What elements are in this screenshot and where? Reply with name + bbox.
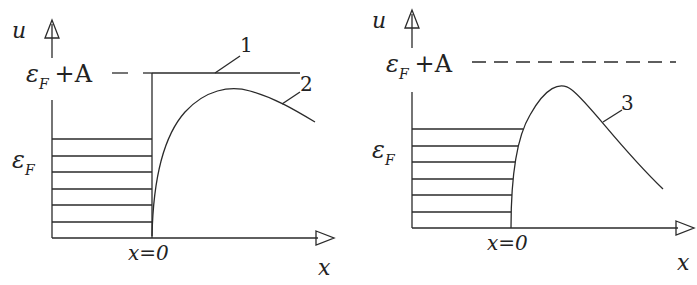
curve-1-leader bbox=[215, 56, 240, 73]
curve-2 bbox=[152, 89, 315, 236]
fermi-label: εF bbox=[12, 146, 36, 178]
level-top-label: εF+A bbox=[26, 60, 93, 92]
curve-2-label: 2 bbox=[300, 72, 313, 96]
x-axis-arrow-icon bbox=[316, 231, 334, 245]
curve-1-label: 1 bbox=[240, 33, 253, 57]
level-top-label: εF+A bbox=[386, 50, 453, 82]
curve-3-leader bbox=[603, 110, 622, 122]
y-axis-label: u bbox=[12, 18, 26, 43]
right-panel: u x εF+A εF 3 x=0 bbox=[372, 8, 694, 275]
curve-2-leader bbox=[282, 92, 300, 104]
x-axis-label: x bbox=[677, 250, 690, 275]
x-axis-label: x bbox=[318, 255, 331, 280]
curve-3-label: 3 bbox=[621, 91, 634, 115]
origin-label: x=0 bbox=[487, 231, 528, 255]
curve-3 bbox=[511, 86, 663, 228]
fermi-label: εF bbox=[372, 136, 396, 168]
diagram-canvas: u x εF+A 1 εF 2 x=0 bbox=[0, 0, 697, 285]
x-axis-arrow-icon bbox=[676, 221, 694, 235]
left-panel: u x εF+A 1 εF 2 x=0 bbox=[12, 18, 334, 280]
filled-levels bbox=[52, 139, 152, 222]
y-axis-label: u bbox=[372, 8, 386, 33]
filled-levels bbox=[412, 129, 523, 212]
origin-label: x=0 bbox=[128, 241, 169, 265]
